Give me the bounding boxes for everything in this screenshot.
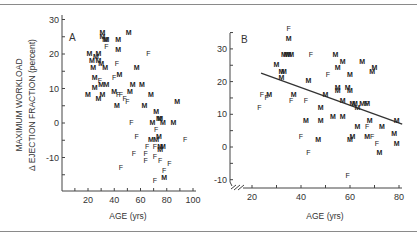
data-point-f: F bbox=[98, 77, 102, 84]
data-point-m: M bbox=[174, 98, 180, 105]
data-point-m: M bbox=[278, 74, 284, 81]
data-point-m: M bbox=[330, 113, 336, 120]
data-point-f: F bbox=[306, 149, 310, 156]
data-point-m: M bbox=[340, 97, 346, 104]
data-point-m: M bbox=[335, 87, 341, 94]
data-point-m: M bbox=[115, 46, 121, 53]
data-point-m: M bbox=[157, 146, 163, 153]
x-tick-label: 40 bbox=[296, 192, 306, 202]
panel-a-ticks: 3020100-1020406080100 bbox=[46, 15, 201, 206]
data-point-m: M bbox=[139, 81, 145, 88]
data-point-f: F bbox=[345, 172, 349, 179]
data-point-m: M bbox=[340, 113, 346, 120]
data-point-f: F bbox=[265, 94, 269, 101]
data-point-m: M bbox=[85, 91, 91, 98]
data-point-m: M bbox=[170, 119, 176, 126]
axis-break-icon bbox=[230, 182, 244, 190]
data-point-m: M bbox=[90, 64, 96, 71]
data-point-m: M bbox=[359, 58, 365, 65]
y-tick-label: 20 bbox=[217, 77, 227, 87]
data-point-m: M bbox=[394, 140, 400, 147]
data-point-f: F bbox=[115, 60, 119, 67]
data-point-m: M bbox=[142, 102, 148, 109]
data-point-f: F bbox=[158, 157, 162, 164]
data-point-m: M bbox=[391, 130, 397, 137]
data-point-m: M bbox=[115, 36, 121, 43]
data-point-f: F bbox=[365, 123, 369, 130]
panel-a: A 3020100-1020406080100 MMMMMMMMMMMMMMMM… bbox=[46, 15, 201, 222]
data-point-m: M bbox=[347, 87, 353, 94]
data-point-m: M bbox=[369, 68, 375, 75]
data-point-m: M bbox=[347, 136, 353, 143]
data-point-f: F bbox=[287, 25, 291, 32]
data-point-f: F bbox=[162, 167, 166, 174]
y-tick-label: -10 bbox=[214, 175, 227, 185]
data-point-m: M bbox=[376, 149, 382, 156]
data-point-m: M bbox=[161, 174, 167, 181]
data-point-f: F bbox=[104, 43, 108, 50]
data-point-f: F bbox=[375, 140, 379, 147]
panel-b-label: B bbox=[241, 34, 248, 45]
data-point-m: M bbox=[394, 117, 400, 124]
data-point-f: F bbox=[154, 126, 158, 133]
y-axis-title: MAXIMUM WORKLOAD Δ EJECTION FRACTION (pe… bbox=[14, 39, 37, 171]
data-point-f: F bbox=[153, 177, 157, 184]
data-point-m: M bbox=[117, 71, 123, 78]
x-tick-label: 20 bbox=[83, 195, 93, 205]
data-point-m: M bbox=[288, 51, 294, 58]
panel-a-x-axis-title: AGE (yrs) bbox=[109, 211, 146, 221]
data-point-f: F bbox=[153, 143, 157, 150]
y-tick-label: 30 bbox=[217, 44, 227, 54]
data-point-m: M bbox=[315, 136, 321, 143]
x-tick-label: 80 bbox=[394, 192, 404, 202]
data-point-f: F bbox=[260, 91, 264, 98]
y-tick-label: 0 bbox=[222, 142, 227, 152]
data-point-m: M bbox=[127, 88, 133, 95]
data-point-m: M bbox=[92, 84, 98, 91]
data-point-f: F bbox=[299, 133, 303, 140]
panel-b: B 3020100-1020406080 MMMMMMMMMMMMMMMMMMM… bbox=[214, 25, 404, 221]
data-point-f: F bbox=[370, 133, 374, 140]
data-point-m: M bbox=[134, 64, 140, 71]
data-point-f: F bbox=[134, 133, 138, 140]
y-axis-title-line2: Δ EJECTION FRACTION (percent) bbox=[27, 39, 37, 171]
panel-a-label: A bbox=[69, 32, 76, 43]
y-tick-label: -10 bbox=[46, 153, 59, 163]
figure-canvas: MAXIMUM WORKLOAD Δ EJECTION FRACTION (pe… bbox=[0, 0, 417, 234]
data-point-m: M bbox=[332, 51, 338, 58]
data-point-m: M bbox=[305, 77, 311, 84]
data-point-m: M bbox=[318, 117, 324, 124]
y-tick-label: 30 bbox=[49, 15, 59, 25]
y-tick-label: 10 bbox=[49, 84, 59, 94]
data-point-m: M bbox=[100, 91, 106, 98]
y-tick-label: 0 bbox=[54, 118, 59, 128]
data-point-f: F bbox=[309, 51, 313, 58]
data-point-m: M bbox=[323, 91, 329, 98]
data-point-f: F bbox=[183, 136, 187, 143]
data-point-m: M bbox=[102, 64, 108, 71]
y-axis-title-line1: MAXIMUM WORKLOAD bbox=[14, 58, 24, 151]
data-point-m: M bbox=[303, 117, 309, 124]
data-point-f: F bbox=[167, 160, 171, 167]
data-point-m: M bbox=[148, 91, 154, 98]
x-tick-label: 40 bbox=[109, 195, 119, 205]
data-point-m: M bbox=[286, 35, 292, 42]
data-point-f: F bbox=[125, 98, 129, 105]
x-tick-label: 100 bbox=[185, 195, 200, 205]
panel-b-points: MMMMMMMMMMMMMMMMMMMMMMMMMMMMMMMMMMMMMMMM… bbox=[257, 25, 399, 179]
data-point-m: M bbox=[347, 71, 353, 78]
data-point-m: M bbox=[114, 102, 120, 109]
data-point-m: M bbox=[354, 123, 360, 130]
data-point-f: F bbox=[146, 50, 150, 57]
data-point-f: F bbox=[129, 119, 133, 126]
data-point-m: M bbox=[340, 58, 346, 65]
y-tick-label: 20 bbox=[49, 49, 59, 59]
x-tick-label: 80 bbox=[162, 195, 172, 205]
y-tick-label: 10 bbox=[217, 109, 227, 119]
data-point-f: F bbox=[365, 100, 369, 107]
data-point-f: F bbox=[326, 71, 330, 78]
data-point-m: M bbox=[318, 104, 324, 111]
x-tick-label: 60 bbox=[345, 192, 355, 202]
data-point-f: F bbox=[257, 104, 261, 111]
panel-b-x-axis-title: AGE (yrs) bbox=[306, 211, 343, 221]
